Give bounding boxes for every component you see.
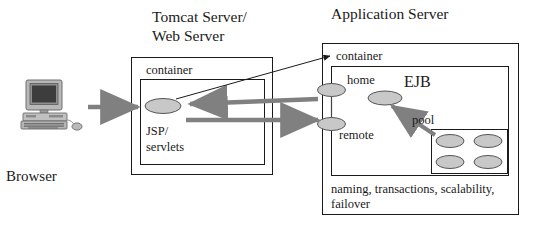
browser-label: Browser xyxy=(6,168,57,185)
pool-instance-ellipse xyxy=(436,156,464,169)
home-interface-ellipse xyxy=(318,84,346,97)
pool-label: pool xyxy=(412,113,434,127)
tomcat-server-title-line2: Web Server xyxy=(152,27,224,45)
application-server-title: Application Server xyxy=(331,5,449,23)
tomcat-server-title-line1: Tomcat Server/ xyxy=(152,8,247,26)
appserver-container-label: container xyxy=(336,49,383,63)
pool-instance-ellipse xyxy=(474,135,502,148)
pool-instance-ellipse xyxy=(436,135,464,148)
appserver-services-line2: failover xyxy=(331,197,370,213)
arrow-container-callout xyxy=(176,56,330,99)
ejb-instance-ellipse xyxy=(368,91,402,105)
remote-interface-label: remote xyxy=(339,128,374,142)
tomcat-container-label: container xyxy=(146,63,193,77)
arrow-ejb-to-web-response xyxy=(190,99,318,104)
jsp-servlets-ellipse xyxy=(145,99,181,114)
architecture-diagram: Tomcat Server/ Web Server Application Se… xyxy=(0,0,537,233)
appserver-services-line1: naming, transactions, scalability, xyxy=(331,182,494,198)
desktop-computer-icon xyxy=(18,78,84,136)
pool-instance-ellipse xyxy=(474,156,502,169)
ejb-label: EJB xyxy=(404,73,431,91)
jsp-label: JSP/ xyxy=(146,124,168,138)
servlets-label: servlets xyxy=(146,140,184,154)
home-interface-label: home xyxy=(347,73,375,87)
